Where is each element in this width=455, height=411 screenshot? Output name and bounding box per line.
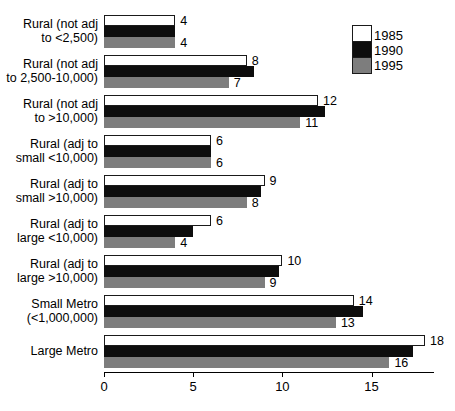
bar-1985[interactable] <box>104 15 175 26</box>
bar-value-label: 6 <box>216 134 223 147</box>
legend-label-1985: 1985 <box>374 29 403 42</box>
bar-row: 6 <box>104 157 434 168</box>
bar-value-label: 4 <box>180 14 187 27</box>
legend-swatch-1985[interactable] <box>353 26 371 41</box>
bar-group: 1816 <box>104 335 434 368</box>
bar-1995[interactable] <box>104 197 247 208</box>
x-tick-label: 15 <box>364 379 378 394</box>
bar-row <box>104 226 434 237</box>
bar-group: 64 <box>104 215 434 248</box>
bar-value-label: 14 <box>359 294 373 307</box>
x-tick-label: 0 <box>100 379 107 394</box>
bar-row: 11 <box>104 117 434 128</box>
bar-value-label: 11 <box>305 116 318 129</box>
bar-1990[interactable] <box>104 66 254 77</box>
bar-1995[interactable] <box>104 317 336 328</box>
category-label: Rural (not adj to 2,500-10,000) <box>0 58 98 85</box>
category-label: Rural (adj to large >10,000) <box>0 258 98 285</box>
legend-label-1990: 1990 <box>374 44 403 57</box>
bar-value-label: 7 <box>234 76 241 89</box>
bar-1995[interactable] <box>104 357 389 368</box>
bar-value-label: 13 <box>341 316 355 329</box>
category-label: Rural (adj to small >10,000) <box>0 178 98 205</box>
bar-1995[interactable] <box>104 157 211 168</box>
bar-row: 12 <box>104 95 434 106</box>
bar-value-label: 4 <box>180 36 187 49</box>
legend-swatches <box>352 25 372 74</box>
x-tick <box>104 373 105 377</box>
bar-row: 10 <box>104 255 434 266</box>
x-tick-label: 5 <box>190 379 197 394</box>
bar-value-label: 4 <box>180 236 187 249</box>
bar-1985[interactable] <box>104 215 211 226</box>
x-axis-line <box>104 372 434 373</box>
bar-value-label: 10 <box>287 254 301 267</box>
bar-1995[interactable] <box>104 77 229 88</box>
bar-chart: Rural (not adj to <2,500)Rural (not adj … <box>0 0 455 411</box>
bar-1990[interactable] <box>104 106 325 117</box>
bar-1995[interactable] <box>104 277 265 288</box>
bar-1990[interactable] <box>104 186 261 197</box>
category-label: Large Metro <box>0 345 98 359</box>
bar-row: 9 <box>104 175 434 186</box>
bar-row: 7 <box>104 77 434 88</box>
bar-row: 4 <box>104 237 434 248</box>
bar-row <box>104 306 434 317</box>
category-label: Rural (not adj to <2,500) <box>0 18 98 45</box>
bar-1995[interactable] <box>104 237 175 248</box>
bar-row: 4 <box>104 15 434 26</box>
bar-1985[interactable] <box>104 95 318 106</box>
bar-row <box>104 346 434 357</box>
x-tick <box>372 373 373 377</box>
bar-row: 6 <box>104 215 434 226</box>
bar-row <box>104 146 434 157</box>
bar-row <box>104 106 434 117</box>
bar-1985[interactable] <box>104 295 354 306</box>
bar-row: 18 <box>104 335 434 346</box>
bar-row: 8 <box>104 197 434 208</box>
bar-1985[interactable] <box>104 175 265 186</box>
bar-group: 66 <box>104 135 434 168</box>
bar-group: 98 <box>104 175 434 208</box>
bar-value-label: 16 <box>394 356 408 369</box>
category-label: Small Metro (<1,000,000) <box>0 298 98 325</box>
bar-group: 109 <box>104 255 434 288</box>
bar-1990[interactable] <box>104 306 363 317</box>
bar-1995[interactable] <box>104 117 300 128</box>
bar-value-label: 8 <box>252 54 259 67</box>
bar-row: 9 <box>104 277 434 288</box>
category-label: Rural (not adj to >10,000) <box>0 98 98 125</box>
bar-row: 14 <box>104 295 434 306</box>
bar-1990[interactable] <box>104 26 175 37</box>
bar-value-label: 18 <box>430 334 444 347</box>
bar-1985[interactable] <box>104 335 425 346</box>
bar-value-label: 6 <box>216 156 223 169</box>
bar-row <box>104 186 434 197</box>
bar-value-label: 9 <box>270 174 277 187</box>
category-label: Rural (adj to large <10,000) <box>0 218 98 245</box>
bar-1985[interactable] <box>104 255 282 266</box>
bar-value-label: 6 <box>216 214 223 227</box>
bar-row: 13 <box>104 317 434 328</box>
bar-value-label: 12 <box>323 94 337 107</box>
bar-1990[interactable] <box>104 146 211 157</box>
bar-1990[interactable] <box>104 266 279 277</box>
bar-group: 1211 <box>104 95 434 128</box>
bar-row: 16 <box>104 357 434 368</box>
bar-group: 1413 <box>104 295 434 328</box>
bar-1990[interactable] <box>104 346 413 357</box>
bar-1995[interactable] <box>104 37 175 48</box>
legend-swatch-1995[interactable] <box>353 57 371 73</box>
category-label: Rural (adj to small <10,000) <box>0 138 98 165</box>
x-tick <box>282 373 283 377</box>
bar-value-label: 8 <box>252 196 259 209</box>
legend-label-1995: 1995 <box>374 59 403 72</box>
bar-1985[interactable] <box>104 135 211 146</box>
x-tick-label: 10 <box>275 379 289 394</box>
bar-1985[interactable] <box>104 55 247 66</box>
bar-value-label: 9 <box>270 276 277 289</box>
bar-row: 6 <box>104 135 434 146</box>
legend-swatch-1990[interactable] <box>353 41 371 57</box>
x-tick <box>193 373 194 377</box>
